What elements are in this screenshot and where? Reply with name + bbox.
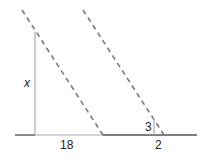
label-18: 18 (60, 138, 74, 152)
dashed-hypotenuse-large (22, 10, 103, 135)
label-x: x (23, 76, 31, 90)
label-2: 2 (155, 138, 162, 152)
dashed-hypotenuse-small (83, 10, 164, 135)
label-3: 3 (145, 120, 152, 134)
similar-triangles-diagram: x 18 3 2 (0, 0, 206, 160)
